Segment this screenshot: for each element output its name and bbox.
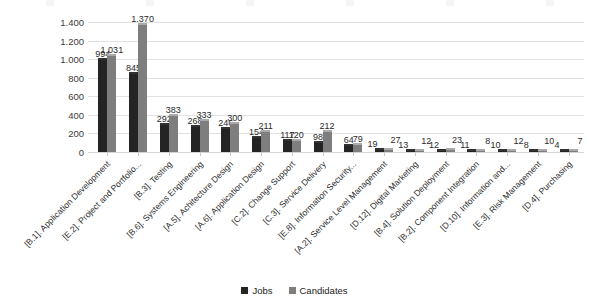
bar-jobs: 994 bbox=[98, 60, 107, 152]
bar-candidates: 1.031 bbox=[107, 56, 116, 152]
y-axis-tick-label: 800 bbox=[68, 72, 84, 83]
y-axis: 1.4001.2001.0008006004002000 bbox=[40, 14, 84, 160]
x-axis-labels: [B.1]. Application Development[E.2]. Pro… bbox=[88, 157, 584, 267]
legend-swatch-icon bbox=[289, 287, 296, 294]
y-axis-tick-label: 1.200 bbox=[60, 35, 84, 46]
bar-value-label: 333 bbox=[197, 111, 212, 120]
x-axis-label-slot: [D.4]. Purchasing bbox=[553, 157, 584, 267]
y-axis-tick-label: 1.000 bbox=[60, 54, 84, 65]
y-axis-tick-label: 1.400 bbox=[60, 17, 84, 28]
legend-item-candidates[interactable]: Candidates bbox=[289, 285, 348, 296]
y-axis-tick-label: 600 bbox=[68, 91, 84, 102]
bar-value-label: 1.031 bbox=[101, 46, 124, 55]
legend-label: Jobs bbox=[252, 285, 272, 296]
y-axis-tick-label: 200 bbox=[68, 128, 84, 139]
y-axis-tick-label: 400 bbox=[68, 109, 84, 120]
bar-value-label: 1.370 bbox=[131, 15, 154, 24]
legend-swatch-icon bbox=[241, 287, 248, 294]
bar-chart: 1.4001.2001.0008006004002000 9941.031845… bbox=[0, 0, 589, 303]
legend-label: Candidates bbox=[300, 285, 348, 296]
y-axis-tick-label: 0 bbox=[79, 147, 84, 158]
top-crop-artifact bbox=[0, 0, 589, 6]
legend-item-jobs[interactable]: Jobs bbox=[241, 285, 272, 296]
chart-legend: JobsCandidates bbox=[0, 285, 589, 296]
bar-group: 9941.031 bbox=[92, 22, 123, 152]
